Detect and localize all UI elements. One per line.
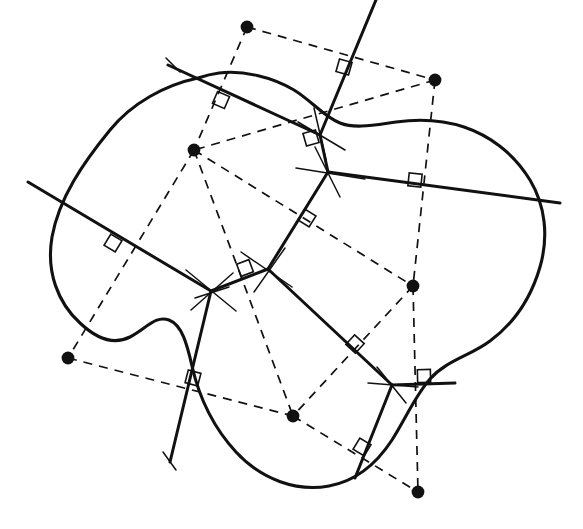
voronoi-ray-s3-s5: [28, 182, 211, 291]
voronoi-ray-s1-s3: [168, 65, 320, 135]
right-angle-mark-s1-s3: [212, 91, 229, 108]
vertex-tick-v3-a: [241, 252, 292, 287]
site-dot-s7[interactable]: [412, 486, 425, 499]
site-dot-s5[interactable]: [62, 352, 75, 365]
voronoi-diagram-figure: [0, 0, 583, 529]
site-dot-s6[interactable]: [287, 410, 300, 423]
region-boundary-path: [50, 72, 544, 487]
vertex-tick-bottom: [163, 452, 176, 470]
delaunay-edge-s5-s6: [68, 358, 293, 416]
delaunay-edge-s2-s3: [194, 80, 435, 150]
delaunay-edge-s3-s6: [194, 150, 293, 416]
region-boundary-group: [50, 72, 544, 487]
site-dot-s2[interactable]: [429, 74, 442, 87]
voronoi-ray-s1-s2: [320, 0, 378, 135]
voronoi-edge-v3-v5: [268, 269, 392, 385]
delaunay-edge-s3-s4: [194, 150, 413, 286]
diagram-canvas: [0, 0, 583, 529]
voronoi-ray-s2-s4: [328, 172, 560, 203]
vertex-tick-v3-b: [254, 248, 285, 292]
right-angle-mark-s3-s6: [237, 260, 254, 277]
delaunay-edge-s4-s7: [413, 286, 418, 492]
site-dot-s4[interactable]: [407, 280, 420, 293]
site-dot-s1[interactable]: [241, 21, 254, 34]
site-dot-s3[interactable]: [188, 144, 201, 157]
delaunay-edge-s1-s2: [247, 27, 435, 80]
voronoi-ray-s5-s6: [170, 291, 211, 462]
vertex-tick-v4-c: [195, 287, 229, 298]
delaunay-edge-s3-s5: [68, 150, 194, 358]
